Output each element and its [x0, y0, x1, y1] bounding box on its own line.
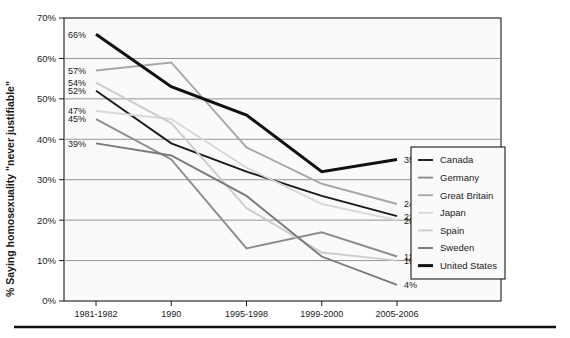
legend-label-canada: Canada — [440, 154, 474, 165]
legend-label-great-britain: Great Britain — [440, 190, 493, 201]
legend-label-japan: Japan — [440, 207, 466, 218]
legend-label-spain: Spain — [440, 225, 464, 236]
start-value-label-united-states: 66% — [68, 30, 86, 40]
y-tick-label: 50% — [37, 93, 57, 104]
start-value-label-germany: 45% — [68, 114, 86, 124]
x-tick-label: 2005-2006 — [375, 309, 418, 319]
y-tick-label: 30% — [37, 174, 57, 185]
y-tick-label: 20% — [37, 215, 57, 226]
x-tick-label: 1990 — [161, 309, 181, 319]
legend-label-germany: Germany — [440, 172, 479, 183]
legend-label-sweden: Sweden — [440, 242, 474, 253]
y-tick-label: 10% — [37, 255, 57, 266]
x-tick-label: 1981-1982 — [74, 309, 117, 319]
start-value-label-canada: 52% — [68, 86, 86, 96]
legend: CanadaGermanyGreat BritainJapanSpainSwed… — [411, 147, 505, 279]
x-tick-label: 1995-1998 — [225, 309, 268, 319]
y-axis-title: % Saying homosexuality "never justifiabl… — [4, 81, 16, 297]
x-tick-label: 1999-2000 — [300, 309, 343, 319]
y-tick-label: 70% — [37, 12, 57, 23]
legend-label-united-states: United States — [440, 260, 497, 271]
chart-figure: % Saying homosexuality "never justifiabl… — [0, 0, 570, 338]
line-chart-svg: % Saying homosexuality "never justifiabl… — [0, 0, 570, 338]
start-value-label-great-britain: 57% — [68, 66, 86, 76]
start-value-label-sweden: 39% — [68, 139, 86, 149]
end-value-label-sweden: 4% — [404, 280, 417, 290]
y-tick-label: 0% — [42, 295, 56, 306]
y-tick-label: 40% — [37, 134, 57, 145]
y-tick-label: 60% — [37, 53, 57, 64]
